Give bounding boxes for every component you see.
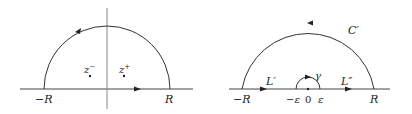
label-z-minus: z− [83, 63, 95, 75]
label-zero: 0 [305, 94, 311, 105]
contour-diagrams: z− z+ −R R C′ L′ L″ γ −R R −ε 0 ε [0, 0, 412, 114]
left-contour-diagram: z− z+ −R R [20, 8, 193, 109]
label-neg-R: −R [35, 93, 53, 106]
label-gamma: γ [315, 70, 321, 81]
origin-point [307, 88, 309, 90]
arc-arrow-icon [307, 21, 313, 26]
label-epsilon: ε [318, 94, 323, 105]
right-contour-diagram: C′ L′ L″ γ −R R −ε 0 ε [229, 21, 390, 107]
axis-arrow-icon [134, 87, 141, 92]
gamma-arrow-icon [305, 75, 311, 80]
label-pos-R: R [164, 93, 173, 106]
semicircle-arc-C-prime [242, 34, 374, 89]
label-pos-R: R [369, 93, 378, 106]
label-C-prime: C′ [348, 24, 359, 37]
label-L-double-prime: L″ [340, 75, 353, 88]
label-z-plus: z+ [118, 63, 130, 75]
label-neg-epsilon: −ε [286, 94, 300, 105]
label-neg-R: −R [233, 93, 251, 106]
label-L-prime: L′ [265, 75, 276, 88]
pole-z-minus [89, 75, 91, 77]
arc-arrow-icon [75, 28, 81, 34]
pole-z-plus [123, 75, 125, 77]
